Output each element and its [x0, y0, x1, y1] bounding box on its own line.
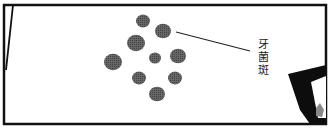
slanted-edge-line	[6, 5, 13, 70]
plaque-spot	[170, 49, 186, 64]
plaque-spot	[168, 72, 182, 85]
plaque-spot	[132, 72, 146, 85]
label-char: 斑	[256, 64, 270, 77]
leader-line	[176, 32, 250, 51]
plaque-spot	[149, 87, 165, 102]
panel-frame	[4, 5, 326, 124]
plaque-spot	[136, 15, 150, 28]
plaque-spot	[155, 24, 171, 39]
plaque-spot	[127, 35, 145, 52]
plaque-spot	[149, 52, 161, 63]
plaque-spot	[104, 54, 122, 71]
plaque-label: 牙 菌 斑	[256, 38, 270, 77]
label-char: 菌	[256, 51, 270, 64]
label-char: 牙	[256, 38, 270, 51]
plaque-illustration	[0, 0, 336, 132]
plaque-spots	[104, 15, 186, 102]
